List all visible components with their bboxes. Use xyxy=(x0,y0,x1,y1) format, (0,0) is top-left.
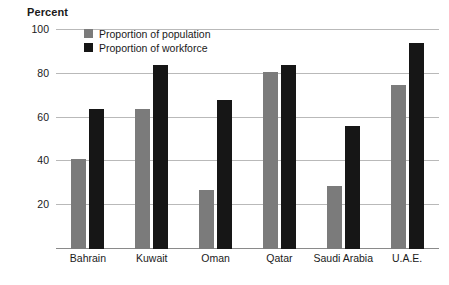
bar-group xyxy=(311,30,375,249)
bar-group xyxy=(120,30,184,249)
y-tick-label-80: 80 xyxy=(37,67,49,79)
bar xyxy=(135,109,150,249)
x-axis-label: U.A.E. xyxy=(375,252,439,264)
bar xyxy=(217,100,232,249)
legend-label-population: Proportion of population xyxy=(99,28,211,40)
x-axis-labels: BahrainKuwaitOmanQatarSaudi ArabiaU.A.E. xyxy=(56,252,439,264)
bar xyxy=(199,190,214,249)
legend-swatch-workforce-icon xyxy=(84,43,93,52)
bar xyxy=(153,65,168,249)
bar xyxy=(391,85,406,249)
y-tick-label-100: 100 xyxy=(31,23,49,35)
plot-area: 20406080100 xyxy=(56,30,439,249)
bar-chart: Percent 20406080100 BahrainKuwaitOmanQat… xyxy=(0,0,449,285)
legend-item-population: Proportion of population xyxy=(84,27,211,40)
y-tick-label-20: 20 xyxy=(37,198,49,210)
y-tick-label-60: 60 xyxy=(37,111,49,123)
bar xyxy=(409,43,424,249)
bar xyxy=(281,65,296,249)
bar-group xyxy=(375,30,439,249)
legend-label-workforce: Proportion of workforce xyxy=(99,42,208,54)
bar xyxy=(327,186,342,250)
bar-groups xyxy=(56,30,439,249)
x-axis-label: Saudi Arabia xyxy=(311,252,375,264)
legend: Proportion of population Proportion of w… xyxy=(84,27,211,55)
bar xyxy=(89,109,104,249)
x-axis-label: Oman xyxy=(184,252,248,264)
bar xyxy=(345,126,360,249)
bar-group xyxy=(56,30,120,249)
legend-item-workforce: Proportion of workforce xyxy=(84,41,211,54)
bar xyxy=(263,72,278,249)
legend-swatch-population-icon xyxy=(84,29,93,38)
bar xyxy=(71,159,86,249)
x-axis-label: Bahrain xyxy=(56,252,120,264)
y-tick-label-40: 40 xyxy=(37,154,49,166)
bar-group xyxy=(184,30,248,249)
bar-group xyxy=(247,30,311,249)
y-axis-title: Percent xyxy=(27,6,68,18)
x-axis-label: Qatar xyxy=(247,252,311,264)
x-axis-label: Kuwait xyxy=(120,252,184,264)
